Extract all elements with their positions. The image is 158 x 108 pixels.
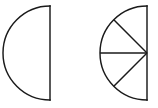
figure-canvas bbox=[0, 0, 158, 108]
right-semicircle-group bbox=[100, 6, 147, 100]
right-sector-divider-lower-diagonal bbox=[114, 53, 147, 86]
left-semicircle-group bbox=[3, 6, 50, 100]
right-sector-divider-upper-diagonal bbox=[114, 20, 147, 53]
left-semicircle-arc bbox=[3, 6, 50, 100]
semicircle-diagram bbox=[0, 0, 158, 108]
